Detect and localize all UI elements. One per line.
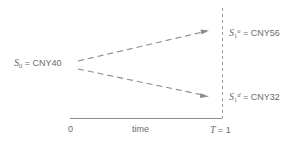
axis-end-equals: = xyxy=(218,125,223,135)
axis-middle-label: time xyxy=(132,125,149,134)
down-node-value: CNY32 xyxy=(251,92,280,102)
up-node-label: S1u = CNY56 xyxy=(229,28,280,38)
axis-end-symbol: T xyxy=(210,124,216,135)
down-branch-arrowhead xyxy=(200,93,209,98)
down-node-superscript: d xyxy=(237,91,240,98)
down-branch-arrow xyxy=(78,69,203,95)
down-node-label: S1d = CNY32 xyxy=(229,92,280,102)
initial-node-subscript: 0 xyxy=(19,62,22,69)
up-branch-arrowhead xyxy=(201,30,210,35)
binomial-tree-diagram: S0 = CNY40 S1u = CNY56 S1d = CNY32 0 tim… xyxy=(0,0,296,144)
up-branch-arrow xyxy=(78,32,203,61)
axis-end-value: 1 xyxy=(226,125,231,135)
axis-end-label: T = 1 xyxy=(210,125,231,135)
initial-node-value: CNY40 xyxy=(33,58,62,68)
down-node-equals: = xyxy=(243,92,248,102)
initial-node-equals: = xyxy=(25,58,30,68)
axis-start-label: 0 xyxy=(68,125,73,134)
up-node-superscript: u xyxy=(237,27,240,34)
diagram-canvas xyxy=(0,0,296,144)
initial-node-label: S0 = CNY40 xyxy=(14,58,62,68)
up-node-value: CNY56 xyxy=(251,28,280,38)
up-node-equals: = xyxy=(243,28,248,38)
